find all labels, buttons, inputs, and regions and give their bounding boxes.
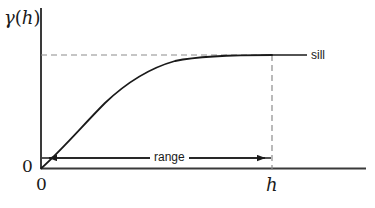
y-axis-origin-tick-label: 0 <box>22 158 33 175</box>
variogram-plot <box>0 0 375 208</box>
range-annotation-label: range <box>150 151 189 163</box>
y-label-close-paren: ) <box>33 7 40 28</box>
y-axis-label: γ(h) <box>4 9 40 27</box>
y-label-open-paren: ( <box>15 7 22 28</box>
gamma-symbol: γ <box>4 7 15 28</box>
x-axis-label: h <box>266 176 278 194</box>
sill-annotation-label: sill <box>311 49 325 61</box>
y-label-variable: h <box>22 7 34 28</box>
variogram-figure: γ(h) h 0 0 sill range <box>0 0 375 208</box>
x-axis-origin-tick-label: 0 <box>36 176 47 193</box>
